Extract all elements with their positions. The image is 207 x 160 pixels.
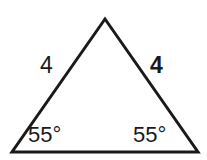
geometry-figure: 4 4 55° 55° bbox=[0, 0, 207, 160]
angle-measure-label-left: 55° bbox=[28, 124, 61, 146]
angle-measure-label-right: 55° bbox=[133, 124, 166, 146]
side-length-label-left: 4 bbox=[40, 54, 53, 77]
side-length-label-right: 4 bbox=[150, 54, 163, 77]
